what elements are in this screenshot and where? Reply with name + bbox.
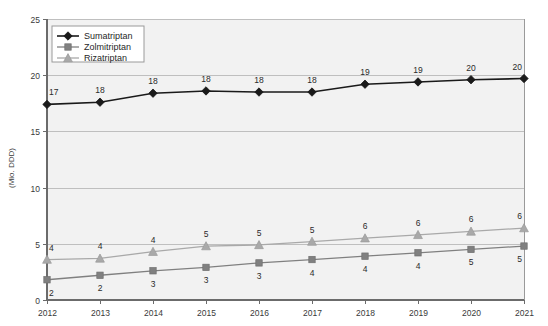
data-point-label: 3	[257, 271, 262, 281]
chart-canvas: 0510152025 20122013201420152016201720182…	[0, 0, 548, 326]
data-point-marker	[309, 256, 315, 262]
y-tick-label: 25	[31, 15, 41, 25]
data-point-label: 18	[95, 85, 105, 95]
data-point-label: 6	[363, 221, 368, 231]
data-point-label: 5	[469, 257, 474, 267]
legend-label: Rizatriptan	[84, 53, 127, 63]
data-point-label: 19	[360, 67, 370, 77]
y-axis-title: (Mio. DDD)	[7, 148, 16, 188]
x-tick-label: 2017	[303, 308, 322, 318]
x-tick-label: 2019	[409, 308, 428, 318]
legend-label: Zolmitriptan	[84, 42, 131, 52]
data-point-label: 6	[469, 214, 474, 224]
data-point-label: 3	[151, 279, 156, 289]
x-tick-label: 2014	[144, 308, 163, 318]
data-point-marker	[256, 260, 262, 266]
data-point-label: 6	[416, 218, 421, 228]
data-point-label: 4	[363, 264, 368, 274]
data-point-marker	[415, 250, 421, 256]
data-point-label: 17	[49, 87, 59, 97]
data-point-label: 18	[148, 76, 158, 86]
data-point-marker	[521, 243, 527, 249]
y-tick-label: 0	[35, 296, 40, 306]
data-point-label: 18	[254, 75, 264, 85]
line-chart: 0510152025 20122013201420152016201720182…	[0, 0, 548, 326]
x-tick-label: 2015	[197, 308, 216, 318]
y-tick-label: 15	[31, 127, 41, 137]
data-point-label: 2	[49, 288, 54, 298]
x-tick-label: 2021	[515, 308, 534, 318]
x-tick-label: 2012	[38, 308, 57, 318]
data-point-label: 4	[310, 268, 315, 278]
data-point-marker	[97, 272, 103, 278]
data-point-label: 4	[98, 241, 103, 251]
data-point-label: 2	[98, 283, 103, 293]
data-point-marker	[150, 268, 156, 274]
data-point-label: 5	[204, 229, 209, 239]
data-point-label: 19	[413, 65, 423, 75]
data-point-label: 5	[517, 254, 522, 264]
data-point-label: 4	[49, 243, 54, 253]
y-tick-label: 10	[31, 184, 41, 194]
data-point-label: 6	[517, 211, 522, 221]
x-tick-label: 2018	[356, 308, 375, 318]
data-point-marker	[44, 277, 50, 283]
data-point-label: 4	[151, 235, 156, 245]
data-point-marker	[362, 253, 368, 259]
legend-entries: SumatriptanZolmitriptanRizatriptan	[57, 31, 133, 63]
data-point-label: 4	[416, 261, 421, 271]
x-tick-label: 2020	[462, 308, 481, 318]
y-tick-label: 20	[31, 71, 41, 81]
data-point-label: 5	[257, 228, 262, 238]
x-tick-label: 2013	[91, 308, 110, 318]
legend-label: Sumatriptan	[84, 31, 133, 41]
data-point-marker	[468, 246, 474, 252]
data-point-label: 20	[513, 62, 523, 72]
legend-item-sumatriptan[interactable]: Sumatriptan	[57, 31, 133, 41]
data-point-label: 5	[310, 225, 315, 235]
chart-legend[interactable]: SumatriptanZolmitriptanRizatriptan	[52, 26, 144, 63]
x-tick-label: 2016	[250, 308, 269, 318]
data-point-marker	[203, 264, 209, 270]
data-point-label: 18	[307, 75, 317, 85]
y-tick-label: 5	[35, 240, 40, 250]
data-point-label: 3	[204, 275, 209, 285]
data-point-label: 18	[201, 74, 211, 84]
data-point-label: 20	[466, 63, 476, 73]
legend-item-rizatriptan[interactable]: Rizatriptan	[57, 53, 127, 63]
data-point-marker	[65, 44, 71, 50]
